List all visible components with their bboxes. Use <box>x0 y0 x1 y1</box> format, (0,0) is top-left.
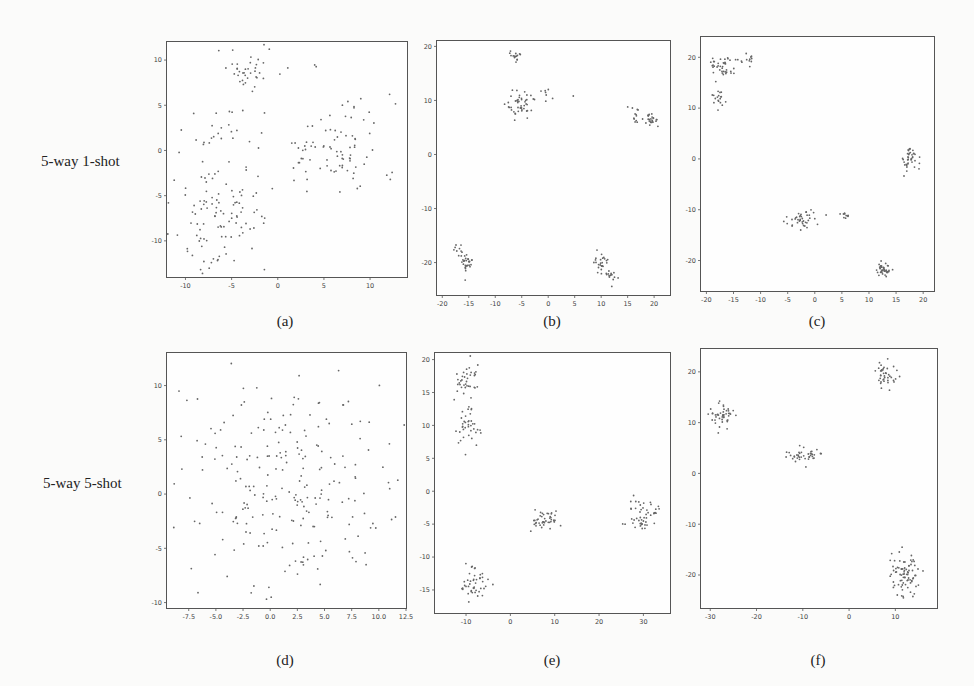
data-point <box>317 568 319 570</box>
data-point <box>640 509 642 511</box>
data-point <box>242 508 244 510</box>
data-point <box>460 380 462 382</box>
data-point <box>470 590 472 592</box>
y-tick-label: -10 <box>151 599 162 607</box>
data-point <box>717 109 719 111</box>
data-point <box>913 561 915 563</box>
data-point <box>797 454 799 456</box>
x-tick-label: 20 <box>919 296 927 304</box>
data-point <box>716 66 718 68</box>
data-point <box>244 74 246 76</box>
data-point <box>286 462 288 464</box>
data-point <box>607 259 609 261</box>
data-point <box>341 167 343 169</box>
data-point <box>785 456 787 458</box>
data-point <box>899 560 901 562</box>
data-point <box>239 235 241 237</box>
data-point <box>313 555 315 557</box>
data-point <box>465 383 467 385</box>
data-point <box>479 574 481 576</box>
data-point <box>719 92 721 94</box>
data-point <box>253 486 255 488</box>
data-point <box>878 274 880 276</box>
data-point <box>478 591 480 593</box>
data-point <box>911 154 913 156</box>
data-point <box>548 513 550 515</box>
data-point <box>268 586 270 588</box>
data-point <box>192 255 194 257</box>
data-point <box>796 457 798 459</box>
data-point <box>918 168 920 170</box>
data-point <box>461 417 463 419</box>
x-tick-label: 10 <box>865 296 873 304</box>
data-point <box>881 269 883 271</box>
data-point <box>201 456 203 458</box>
data-point <box>788 452 790 454</box>
data-point <box>320 540 322 542</box>
data-point <box>645 122 647 124</box>
data-point <box>912 149 914 151</box>
data-point <box>468 601 470 603</box>
data-point <box>214 432 216 434</box>
data-point <box>644 527 646 529</box>
data-point <box>181 468 183 470</box>
data-point <box>264 112 266 114</box>
data-point <box>389 443 391 445</box>
data-point <box>910 159 912 161</box>
data-point <box>466 368 468 370</box>
data-point <box>725 73 727 75</box>
data-point <box>305 149 307 151</box>
data-point <box>250 72 252 74</box>
data-point <box>465 415 467 417</box>
data-point <box>812 456 814 458</box>
data-point <box>909 148 911 150</box>
data-point <box>249 228 251 230</box>
data-point <box>306 141 308 143</box>
data-point <box>334 463 336 465</box>
data-point <box>733 72 735 74</box>
data-point <box>464 427 466 429</box>
data-point <box>266 598 268 600</box>
data-point <box>462 423 464 425</box>
data-point <box>534 520 536 522</box>
data-point <box>641 528 643 530</box>
data-point <box>327 516 329 518</box>
data-point <box>907 587 909 589</box>
data-point <box>268 48 270 50</box>
data-point <box>253 211 255 213</box>
data-point <box>457 379 459 381</box>
data-point <box>879 377 881 379</box>
data-point <box>906 573 908 575</box>
data-point <box>300 499 302 501</box>
data-point <box>523 105 525 107</box>
data-point <box>914 166 916 168</box>
data-point <box>245 166 247 168</box>
data-point <box>263 429 265 431</box>
data-point <box>724 58 726 60</box>
data-point <box>232 521 234 523</box>
data-point <box>469 413 471 415</box>
data-point <box>455 244 457 246</box>
data-point <box>466 381 468 383</box>
data-point <box>883 378 885 380</box>
data-point <box>230 236 232 238</box>
data-point <box>252 516 254 518</box>
data-point <box>715 414 717 416</box>
data-point <box>360 98 362 100</box>
data-point <box>606 274 608 276</box>
data-point <box>242 232 244 234</box>
data-point <box>237 522 239 524</box>
data-point <box>291 519 293 521</box>
data-point <box>300 158 302 160</box>
data-point <box>197 592 199 594</box>
data-point <box>263 222 265 224</box>
data-point <box>223 422 225 424</box>
data-point <box>622 523 624 525</box>
data-point <box>906 170 908 172</box>
x-tick-label: 5 <box>840 296 844 304</box>
data-point <box>519 94 521 96</box>
data-point <box>652 121 654 123</box>
data-point <box>730 71 732 73</box>
data-point <box>633 118 635 120</box>
data-point <box>901 579 903 581</box>
